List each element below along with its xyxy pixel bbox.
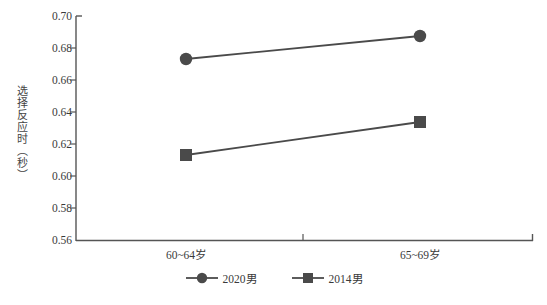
x-axis-category-label: 65~69岁: [400, 246, 440, 262]
legend-label: 2020男: [223, 270, 257, 286]
data-point-marker: [414, 116, 426, 128]
chart-legend: 2020男 2014男: [0, 270, 547, 286]
legend-circle-marker-icon: [185, 271, 219, 285]
legend-item-2020: 2020男: [185, 270, 257, 286]
x-axis-category-label: 60~64岁: [166, 246, 206, 262]
legend-item-2014: 2014男: [291, 270, 363, 286]
series-line-2014: [180, 116, 426, 161]
data-point-marker: [414, 30, 426, 42]
axis-lines: [76, 16, 533, 241]
series-line-2020: [180, 30, 426, 65]
line-chart: 选择反应时（秒） 0.70 0.68 0.66 0.64 0.62 0.60 0…: [0, 0, 547, 305]
plot-area: [0, 0, 547, 305]
legend-label: 2014男: [329, 270, 363, 286]
legend-square-marker-icon: [291, 271, 325, 285]
data-point-marker: [180, 53, 192, 65]
data-point-marker: [180, 149, 192, 161]
y-axis-ticks: [70, 48, 76, 208]
